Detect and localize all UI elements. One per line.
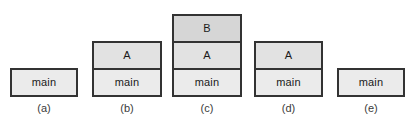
stack-frame-label: main	[115, 77, 140, 88]
stack-column-d: Amain	[254, 41, 323, 97]
stack-frame-main: main	[337, 68, 405, 97]
column-caption-a: (a)	[10, 103, 78, 114]
stack-frame-label: B	[203, 23, 211, 34]
column-caption-e: (e)	[337, 103, 405, 114]
stack-column-e: main	[337, 68, 405, 97]
stack-frame-main: main	[10, 68, 78, 97]
stack-frame-b: B	[172, 14, 242, 43]
stack-frame-label: main	[276, 77, 301, 88]
stack-frame-label: main	[195, 77, 220, 88]
stack-frame-main: main	[254, 68, 323, 97]
stack-frame-label: A	[123, 50, 131, 61]
stack-frame-a: A	[92, 41, 162, 70]
column-caption-c: (c)	[172, 103, 242, 114]
stack-column-c: BAmain	[172, 14, 242, 97]
stack-frame-label: main	[359, 77, 384, 88]
column-caption-b: (b)	[92, 103, 162, 114]
column-caption-d: (d)	[254, 103, 323, 114]
stack-frame-diagram: main(a)Amain(b)BAmain(c)Amain(d)main(e)	[0, 0, 410, 129]
stack-frame-a: A	[172, 41, 242, 70]
stack-frame-main: main	[172, 68, 242, 97]
stack-column-b: Amain	[92, 41, 162, 97]
stack-frame-label: A	[203, 50, 211, 61]
stack-frame-label: A	[285, 50, 293, 61]
stack-frame-label: main	[32, 77, 57, 88]
stack-frame-main: main	[92, 68, 162, 97]
stack-column-a: main	[10, 68, 78, 97]
stack-frame-a: A	[254, 41, 323, 70]
